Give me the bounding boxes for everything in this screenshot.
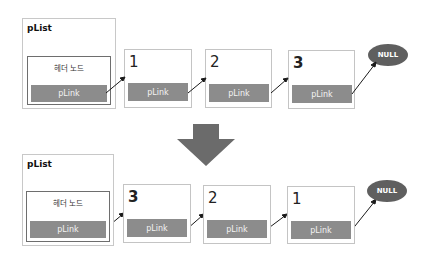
null-terminal-after: NULL: [367, 180, 407, 202]
node-after-2: 2 pLink: [203, 185, 271, 244]
node-plink: pLink: [207, 220, 267, 238]
down-arrow-icon: [177, 124, 235, 166]
link-arrows-before: [106, 62, 376, 94]
node-value: 2: [208, 191, 218, 206]
header-plink: pLink: [30, 221, 106, 238]
node-plink: pLink: [291, 221, 351, 239]
node-value: 1: [292, 192, 302, 207]
node-plink: pLink: [127, 219, 187, 237]
header-node-after: 헤더 노드 pLink: [26, 191, 110, 242]
node-value: 3: [128, 190, 138, 205]
node-after-3: 1 pLink: [287, 186, 355, 244]
header-node-label: 헤더 노드: [27, 197, 109, 208]
node-after-1: 3 pLink: [123, 184, 191, 243]
plist-label: pList: [27, 159, 52, 169]
